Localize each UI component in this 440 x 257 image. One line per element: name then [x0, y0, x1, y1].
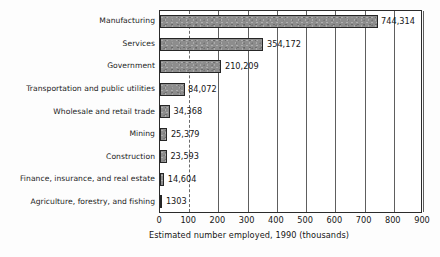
category-label: Wholesale and retail trade: [0, 107, 155, 117]
bar-value-label: 23,593: [167, 150, 199, 163]
category-label: Government: [0, 61, 155, 71]
bar-row: 84,072: [160, 79, 421, 101]
x-tick-label: 500: [297, 215, 313, 225]
bar-value-label: 25,379: [167, 128, 199, 141]
bar-value-label: 744,314: [378, 15, 415, 28]
bar: [160, 83, 185, 96]
bar: [160, 60, 221, 73]
x-tick-label: 900: [414, 215, 430, 225]
x-tick-label: 100: [180, 215, 196, 225]
bar-value-label: 1303: [162, 195, 186, 208]
x-tick-label: 600: [327, 215, 343, 225]
x-tick-label: 700: [356, 215, 372, 225]
category-label: Construction: [0, 152, 155, 162]
bar-value-label: 84,072: [185, 83, 217, 96]
gridline-900: [423, 11, 424, 212]
category-label: Agriculture, forestry, and fishing: [0, 197, 155, 207]
category-label: Transportation and public utilities: [0, 84, 155, 94]
bar-row: 1303: [160, 191, 421, 213]
bar-row: 34,368: [160, 101, 421, 123]
bar-row: 14,604: [160, 169, 421, 191]
x-tick-label: 200: [210, 215, 226, 225]
x-tick-label: 400: [268, 215, 284, 225]
bar-chart-figure: ManufacturingServicesGovernmentTransport…: [0, 0, 440, 257]
x-tick-label: 800: [385, 215, 401, 225]
bar-row: 210,209: [160, 56, 421, 78]
x-tick-label: 300: [239, 215, 255, 225]
category-label: Manufacturing: [0, 16, 155, 26]
bar-row: 354,172: [160, 34, 421, 56]
bar-row: 744,314: [160, 11, 421, 33]
x-axis-tick-labels: 0100200300400500600700800900: [159, 215, 422, 227]
x-tick-label: 0: [156, 215, 161, 225]
bar: [160, 105, 170, 118]
bar-value-label: 34,368: [170, 105, 202, 118]
bar-value-label: 354,172: [263, 38, 300, 51]
bar-value-label: 14,604: [164, 173, 196, 186]
category-label: Finance, insurance, and real estate: [0, 174, 155, 184]
plot-area: 744,314354,172210,20984,07234,36825,3792…: [159, 10, 422, 213]
bar: [160, 38, 263, 51]
bar: [160, 15, 378, 28]
bar: [160, 150, 167, 163]
category-label: Services: [0, 39, 155, 49]
bar-row: 23,593: [160, 146, 421, 168]
bar-row: 25,379: [160, 124, 421, 146]
bar: [160, 128, 167, 141]
bar-value-label: 210,209: [221, 60, 258, 73]
category-axis-labels: ManufacturingServicesGovernmentTransport…: [0, 10, 155, 213]
x-axis-title: Estimated number employed, 1990 (thousan…: [0, 230, 440, 240]
x-axis-title-text: Estimated number employed, 1990 (thousan…: [149, 230, 349, 240]
category-label: Mining: [0, 129, 155, 139]
